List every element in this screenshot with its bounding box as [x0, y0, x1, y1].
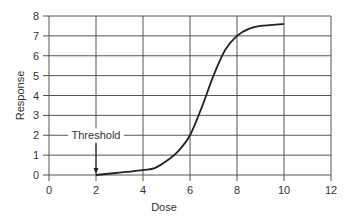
x-tick-label: 2: [93, 184, 99, 196]
y-tick-label: 5: [33, 70, 39, 82]
y-tick-label: 0: [33, 169, 39, 181]
x-tick-label: 10: [278, 184, 290, 196]
x-tick-label: 12: [325, 184, 337, 196]
grid-lines: [43, 16, 331, 181]
dose-response-chart: 012345678 024681012 Threshold Dose Respo…: [0, 0, 349, 217]
threshold-annotation: Threshold: [68, 128, 124, 174]
x-tick-label: 8: [234, 184, 240, 196]
x-tick-label: 4: [140, 184, 146, 196]
y-tick-label: 1: [33, 149, 39, 161]
threshold-arrow-icon: [94, 168, 99, 174]
y-tick-label: 7: [33, 30, 39, 42]
x-axis-ticks: 024681012: [46, 184, 337, 196]
y-tick-label: 6: [33, 50, 39, 62]
x-axis-label: Dose: [151, 201, 177, 213]
y-axis-ticks: 012345678: [33, 10, 39, 181]
x-tick-label: 0: [46, 184, 52, 196]
x-tick-label: 6: [187, 184, 193, 196]
y-tick-label: 8: [33, 10, 39, 22]
y-tick-label: 2: [33, 129, 39, 141]
y-axis-label: Response: [14, 71, 26, 121]
y-tick-label: 4: [33, 90, 39, 102]
threshold-label: Threshold: [72, 129, 121, 141]
y-tick-label: 3: [33, 109, 39, 121]
